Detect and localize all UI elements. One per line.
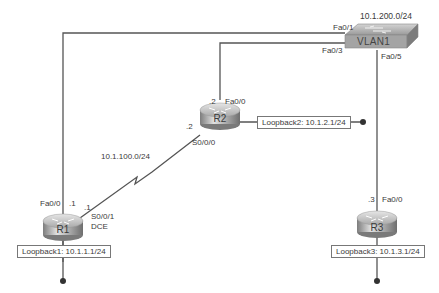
serial-link <box>80 135 200 218</box>
r1-loopback-box: Loopback1: 10.1.1.1/24 <box>17 245 111 258</box>
link-r3-loopback-dot <box>374 278 380 284</box>
switch-network-label: 10.1.200.0/24 <box>360 12 412 21</box>
switch-port-fa03: Fa0/3 <box>322 46 342 55</box>
switch-name: VLAN1 <box>357 36 390 47</box>
r2-serial-host: .2 <box>186 122 193 131</box>
switch-port-fa05: Fa0/5 <box>381 52 401 61</box>
r2-name: R2 <box>205 113 235 124</box>
r3-fa-host: .3 <box>368 195 375 204</box>
r1-fa-port: Fa0/0 <box>40 199 60 208</box>
r3-loopback-box: Loopback3: 10.1.3.1/24 <box>331 245 425 258</box>
r1-serial-port: S0/0/1 <box>91 212 114 221</box>
r1-serial-role: DCE <box>91 222 108 231</box>
r1-name: R1 <box>48 224 78 235</box>
r2-serial-port: S0/0/0 <box>192 138 215 147</box>
r2-fa-host: .2 <box>209 97 216 106</box>
r2-loopback-box: Loopback2: 10.1.2.1/24 <box>257 116 351 129</box>
switch-port-fa01: Fa0/1 <box>333 23 353 32</box>
r1-serial-host: .1 <box>84 203 91 212</box>
r1-fa-host: .1 <box>69 199 76 208</box>
r3-fa-port: Fa0/0 <box>382 195 402 204</box>
r3-name: R3 <box>362 222 392 233</box>
serial-network-label: 10.1.100.0/24 <box>101 152 150 161</box>
r2-fa-port: Fa0/0 <box>225 97 245 106</box>
